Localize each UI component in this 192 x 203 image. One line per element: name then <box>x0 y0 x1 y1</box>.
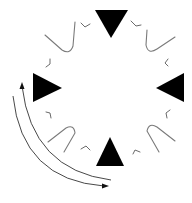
arrowhead-icon <box>102 184 109 189</box>
chevron-group <box>46 21 170 154</box>
triangle-left-icon <box>33 73 62 102</box>
triangle-bottom-icon <box>96 137 124 166</box>
chevron-top-right-inner-icon <box>131 21 141 26</box>
hairpin-group <box>45 22 175 152</box>
diagram-canvas <box>0 0 192 203</box>
triangle-top-icon <box>95 10 128 38</box>
chevron-bottom-left-inner-icon <box>81 146 90 150</box>
arrowhead-icon <box>20 82 25 89</box>
chevron-top-left-inner-icon <box>81 23 90 27</box>
chevron-bottom-right-inner-icon <box>133 150 140 154</box>
hairpin-bottom-left-icon <box>48 127 75 152</box>
rotational-symmetry-diagram <box>0 0 192 203</box>
chevron-right-lower-icon <box>166 110 170 118</box>
chevron-left-upper-icon <box>46 59 50 67</box>
chevron-left-lower-icon <box>46 112 51 118</box>
hairpin-bottom-right-icon <box>147 125 175 152</box>
hairpin-top-right-icon <box>146 30 175 51</box>
chevron-right-upper-icon <box>165 59 168 66</box>
arrow-group <box>13 82 111 189</box>
triangle-group <box>33 10 184 166</box>
outer-arc-arrow <box>13 96 109 189</box>
triangle-right-icon <box>156 73 184 102</box>
hairpin-top-left-icon <box>45 22 75 52</box>
